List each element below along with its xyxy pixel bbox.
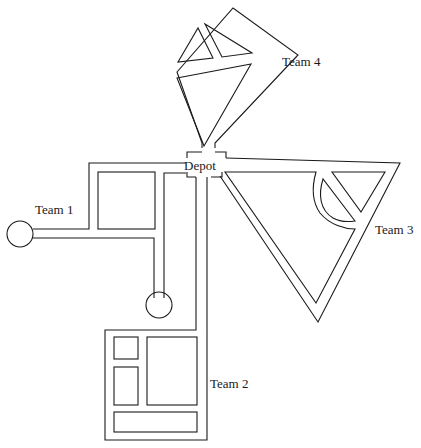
team-1-route [7, 163, 186, 318]
team-4-label: Team 4 [282, 54, 320, 70]
depot-label: Depot [184, 158, 216, 174]
team-1-label: Team 1 [35, 202, 73, 218]
team-3-label: Team 3 [375, 222, 413, 238]
team-2-route [105, 177, 207, 440]
route-diagram: Depot Team 1 Team 2 Team 3 Team 4 [0, 0, 421, 448]
team-2-label: Team 2 [210, 376, 248, 392]
team-3-route [220, 158, 400, 322]
team-4-route [177, 8, 298, 148]
